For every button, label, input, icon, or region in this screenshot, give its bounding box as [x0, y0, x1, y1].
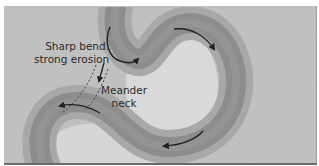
- sharp-bend-label-line1: Sharp bend:: [34, 40, 109, 53]
- sharp-bend-label: Sharp bend: strong erosion: [34, 40, 109, 66]
- meander-neck-label: Meander neck: [101, 84, 147, 110]
- meander-neck-label-line1: Meander: [101, 84, 147, 97]
- sharp-bend-label-line2: strong erosion: [34, 53, 109, 66]
- meander-neck-label-line2: neck: [101, 97, 147, 110]
- meander-diagram: Sharp bend: strong erosion Meander neck: [4, 6, 317, 165]
- meander-illustration: [4, 7, 316, 163]
